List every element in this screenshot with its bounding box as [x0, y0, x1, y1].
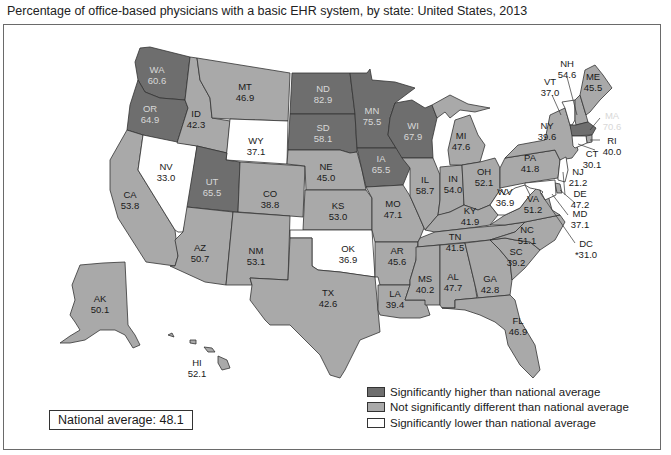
label-OK-value: 36.9	[339, 254, 358, 265]
label-WY-abbr: WY	[248, 135, 264, 146]
label-AZ-value: 50.7	[191, 253, 210, 264]
label-FL-abbr: FL	[512, 315, 523, 326]
label-OK-abbr: OK	[341, 243, 355, 254]
legend-swatch-lower	[367, 418, 385, 428]
legend-item-higher: Significantly higher than national avera…	[367, 384, 629, 400]
label-IL-abbr: IL	[421, 174, 429, 185]
label-LA-abbr: LA	[389, 288, 401, 299]
label-AK-value: 50.1	[91, 304, 110, 315]
label-MA-abbr: MA	[605, 110, 620, 121]
label-MN-value: 75.5	[363, 116, 382, 127]
label-WI-value: 67.9	[404, 131, 423, 142]
label-IL-value: 58.7	[416, 185, 435, 196]
label-UT-abbr: UT	[206, 176, 219, 187]
label-NH-abbr: NH	[560, 58, 574, 69]
label-PA-value: 41.8	[521, 163, 540, 174]
label-TX-abbr: TX	[322, 287, 335, 298]
legend-label-higher: Significantly higher than national avera…	[390, 386, 600, 398]
legend-item-lower: Significantly lower than national averag…	[367, 415, 629, 431]
label-OR-value: 64.9	[141, 114, 160, 125]
label-NE-value: 45.0	[317, 172, 336, 183]
label-NJ-abbr: NJ	[572, 166, 584, 177]
label-MS-abbr: MS	[418, 273, 432, 284]
label-AR-abbr: AR	[390, 245, 403, 256]
label-VA-abbr: VA	[527, 193, 540, 204]
label-KS-abbr: KS	[332, 200, 345, 211]
label-WV-abbr: WV	[497, 186, 513, 197]
label-MS-value: 40.2	[416, 284, 435, 295]
label-ME-value: 45.5	[584, 82, 603, 93]
label-NY-value: 39.6	[538, 131, 557, 142]
label-OH-value: 52.1	[475, 177, 494, 188]
label-CO-abbr: CO	[263, 188, 277, 199]
label-ID-value: 42.3	[187, 119, 206, 130]
label-GA-abbr: GA	[483, 273, 497, 284]
label-SD-value: 58.1	[314, 133, 333, 144]
label-KY-abbr: KY	[464, 205, 477, 216]
label-NH-value: 54.6	[558, 69, 577, 80]
label-CT-abbr: CT	[586, 148, 599, 159]
label-IA-value: 65.5	[372, 164, 391, 175]
label-SC-abbr: SC	[509, 246, 522, 257]
label-TN-value: 41.5	[446, 242, 465, 253]
label-IA-abbr: IA	[377, 153, 387, 164]
label-SC-value: 39.2	[507, 257, 526, 268]
label-MT-value: 46.9	[236, 92, 255, 103]
label-SD-abbr: SD	[316, 122, 329, 133]
label-ND-value: 82.9	[314, 94, 333, 105]
legend-label-lower: Significantly lower than national averag…	[390, 417, 596, 429]
legend-swatch-higher	[367, 387, 385, 397]
label-HI-value: 52.1	[188, 368, 207, 379]
label-RI-abbr: RI	[607, 135, 617, 146]
legend: Significantly higher than national avera…	[367, 384, 629, 431]
label-UT-value: 65.5	[203, 187, 222, 198]
label-NM-value: 53.1	[247, 256, 266, 267]
label-NE-abbr: NE	[319, 161, 332, 172]
label-MO-value: 47.1	[384, 209, 403, 220]
label-MI-value: 47.6	[452, 141, 471, 152]
label-CA-value: 53.8	[121, 200, 140, 211]
legend-item-not-different: Not significantly different than nationa…	[367, 400, 629, 416]
label-HI-abbr: HI	[192, 357, 202, 368]
label-WA-abbr: WA	[150, 64, 166, 75]
state-MA[interactable]	[570, 122, 596, 136]
label-NC-abbr: NC	[520, 224, 534, 235]
label-CT-value: 30.1	[583, 159, 602, 170]
label-KS-value: 53.0	[329, 211, 348, 222]
label-AK-abbr: AK	[94, 293, 107, 304]
label-MT-abbr: MT	[238, 81, 252, 92]
label-VT-value: 37.0	[541, 87, 560, 98]
label-CO-value: 38.8	[261, 199, 280, 210]
legend-label-not-different: Not significantly different than nationa…	[390, 401, 629, 413]
label-NJ-value: 21.2	[569, 177, 588, 188]
label-ID-abbr: ID	[191, 108, 201, 119]
label-RI-value: 40.0	[603, 146, 622, 157]
label-MA-value: 70.6	[603, 121, 622, 132]
label-AL-abbr: AL	[447, 271, 459, 282]
label-IN-abbr: IN	[448, 173, 458, 184]
label-TX-value: 42.6	[319, 298, 338, 309]
label-NV-value: 33.0	[157, 172, 176, 183]
label-ND-abbr: ND	[316, 83, 330, 94]
label-TN-abbr: TN	[449, 231, 462, 242]
national-average-box: National average: 48.1	[49, 410, 193, 430]
label-VA-value: 51.2	[524, 204, 543, 215]
label-WY-value: 37.1	[247, 146, 266, 157]
label-WA-value: 60.6	[148, 75, 167, 86]
label-MD-abbr: MD	[573, 208, 588, 219]
label-GA-value: 42.8	[481, 284, 500, 295]
label-KY-value: 41.9	[461, 216, 480, 227]
label-PA-abbr: PA	[524, 152, 537, 163]
label-MN-abbr: MN	[365, 105, 380, 116]
label-DE-abbr: DE	[573, 188, 586, 199]
label-VT-abbr: VT	[544, 76, 556, 87]
label-AR-value: 45.6	[388, 256, 407, 267]
label-WI-abbr: WI	[407, 120, 419, 131]
label-DC-abbr: DC	[579, 238, 593, 249]
label-CA-abbr: CA	[123, 189, 137, 200]
label-MO-abbr: MO	[385, 198, 400, 209]
label-IN-value: 54.0	[444, 184, 463, 195]
label-ME-abbr: ME	[586, 71, 600, 82]
label-MI-abbr: MI	[456, 130, 467, 141]
label-DC-value: *31.0	[575, 249, 597, 260]
